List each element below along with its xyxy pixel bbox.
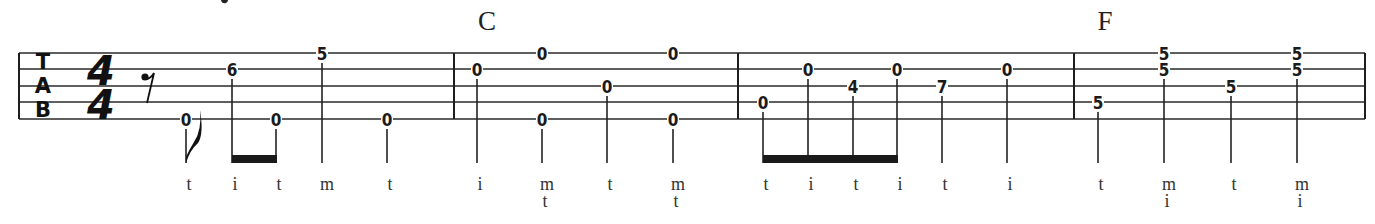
fret-number: 0 [668,110,679,130]
fret-number: 0 [803,60,814,80]
fret-number: 0 [382,110,393,130]
tablature-staff: T A B 4 4 CF 06050000000004070555555 tit… [0,0,1375,224]
finger-label: m [320,174,334,194]
fret-number: 6 [227,60,238,80]
fret-number: 0 [472,60,483,80]
fret-number: 0 [537,110,548,130]
fret-number: 0 [668,44,679,64]
finger-label: i [477,174,482,194]
finger-label: t [542,191,547,211]
finger-label: t [853,174,858,194]
time-signature: 4 4 [86,48,115,128]
fret-number: 0 [602,77,613,97]
picking-fingers: titmtimttmttitititmitmi [186,174,1309,211]
tab-letter-t: T [36,50,51,74]
finger-label: t [942,174,947,194]
cutoff-glyph [221,0,228,3]
finger-label: t [763,174,768,194]
fret-number: 0 [271,110,282,130]
tab-letter-b: B [35,98,51,122]
finger-label: i [232,174,237,194]
chord-labels: CF [478,6,1113,36]
fret-number: 5 [1292,60,1303,80]
beam [232,155,277,163]
cutoff-title-glyph [221,0,228,3]
eighth-rest-icon [141,73,154,103]
finger-label: i [897,174,902,194]
note-beams [232,155,898,163]
fret-number: 0 [181,110,192,130]
fret-numbers: 06050000000004070555555 [180,44,1303,130]
finger-label: i [808,174,813,194]
finger-label: t [276,174,281,194]
beam [763,155,898,163]
fret-number: 5 [317,44,328,64]
finger-label: t [607,174,612,194]
finger-label: t [186,174,191,194]
finger-label: t [673,191,678,211]
fret-number: 0 [758,93,769,113]
note-stems [186,63,1297,163]
fret-number: 5 [1226,77,1237,97]
finger-label: i [1297,191,1302,211]
finger-label: i [1164,191,1169,211]
fret-number: 0 [1002,60,1013,80]
tab-clef: T A B [35,50,52,122]
chord-label-f: F [1097,6,1112,36]
fret-number: 0 [892,60,903,80]
chord-label-c: C [478,6,496,36]
tab-letter-a: A [35,74,52,98]
fret-number: 4 [848,77,859,97]
finger-label: i [1007,174,1012,194]
fret-number: 7 [937,77,948,97]
time-signature-bottom: 4 [86,82,115,128]
fret-number: 5 [1093,93,1104,113]
fret-number: 0 [537,44,548,64]
finger-label: t [1231,174,1236,194]
finger-label: t [387,174,392,194]
fret-number: 5 [1159,60,1170,80]
finger-label: t [1098,174,1103,194]
